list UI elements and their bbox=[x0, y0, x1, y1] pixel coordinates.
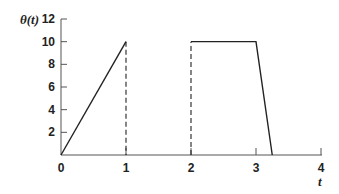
y-tick-label: 4 bbox=[48, 103, 55, 117]
y-tick-label: 12 bbox=[42, 12, 56, 26]
y-tick-label: 2 bbox=[48, 125, 55, 139]
y-tick-label: 6 bbox=[48, 80, 55, 94]
x-tick-label: 0 bbox=[58, 161, 65, 175]
y-axis: 24681012 bbox=[42, 12, 67, 155]
x-axis-title: t bbox=[318, 174, 322, 189]
theta-line bbox=[61, 42, 126, 155]
x-tick-label: 4 bbox=[318, 161, 325, 175]
theta-chart: 24681012 01234 θ(t) t bbox=[0, 0, 339, 194]
theta-line bbox=[191, 42, 272, 155]
plot-series bbox=[61, 42, 272, 155]
x-tick-label: 1 bbox=[123, 161, 130, 175]
y-tick-label: 8 bbox=[48, 57, 55, 71]
x-tick-label: 3 bbox=[253, 161, 260, 175]
y-axis-title: θ(t) bbox=[20, 12, 39, 27]
x-tick-label: 2 bbox=[188, 161, 195, 175]
y-tick-label: 10 bbox=[42, 35, 56, 49]
